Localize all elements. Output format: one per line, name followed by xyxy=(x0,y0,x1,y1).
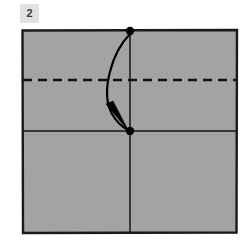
origami-figure xyxy=(0,0,248,247)
center-point-dot xyxy=(126,127,134,135)
top-edge-midpoint-dot xyxy=(126,27,134,35)
origami-step-diagram: 2 xyxy=(0,0,248,247)
